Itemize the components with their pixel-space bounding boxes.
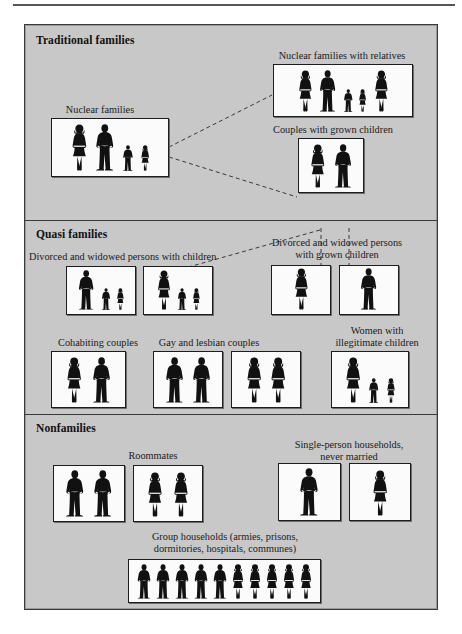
box-gay-and-lesbian-couples-2 bbox=[231, 351, 301, 408]
box-roommates-2 bbox=[133, 465, 203, 522]
box-roommates-1 bbox=[53, 465, 125, 522]
figure-row bbox=[128, 557, 321, 602]
figure-row bbox=[299, 135, 363, 192]
box-cohabiting-couples bbox=[51, 351, 126, 408]
box-nuclear-families-with-relatives bbox=[273, 64, 413, 117]
figure-row bbox=[350, 460, 410, 520]
diagram-frame: Traditional families Nuclear families bbox=[24, 24, 438, 610]
caption-couples-with-grown-children: Couples with grown children bbox=[243, 124, 423, 136]
woman-silhouette-icon bbox=[344, 357, 362, 403]
section-divider-1 bbox=[25, 220, 437, 221]
man-silhouette-icon bbox=[333, 144, 353, 188]
box-gay-and-lesbian-couples-1 bbox=[153, 351, 223, 408]
man-silhouette-icon bbox=[174, 564, 190, 599]
box-women-with-illegitimate-children bbox=[331, 351, 409, 408]
figure-row bbox=[154, 348, 222, 407]
man-silhouette-icon bbox=[193, 564, 209, 599]
woman-silhouette-icon bbox=[146, 472, 164, 517]
man-silhouette-icon bbox=[191, 357, 212, 403]
man-silhouette-icon bbox=[359, 268, 378, 310]
figure-row bbox=[54, 462, 124, 521]
boy-silhouette-icon bbox=[368, 378, 380, 403]
box-divorced-widowed-grown-children-2 bbox=[339, 265, 399, 315]
figure-row bbox=[279, 460, 340, 520]
section-divider-2 bbox=[25, 414, 437, 415]
man-silhouette-icon bbox=[92, 470, 114, 517]
woman-silhouette-icon bbox=[70, 124, 89, 171]
boy-silhouette-icon bbox=[343, 89, 354, 112]
box-single-person-households-1 bbox=[278, 463, 341, 521]
woman-silhouette-icon bbox=[231, 564, 245, 599]
box-nuclear-families bbox=[51, 118, 169, 177]
caption-women-with-illegitimate-children: Women with illegitimate children bbox=[317, 325, 437, 348]
figure-row bbox=[340, 262, 398, 314]
man-silhouette-icon bbox=[212, 564, 228, 599]
woman-silhouette-icon bbox=[373, 70, 390, 112]
girl-silhouette-icon bbox=[140, 145, 150, 171]
man-silhouette-icon bbox=[164, 357, 185, 403]
box-single-person-households-2 bbox=[349, 463, 411, 521]
diagram-page: Traditional families Nuclear families bbox=[0, 0, 462, 634]
section-title-traditional: Traditional families bbox=[36, 34, 135, 46]
woman-silhouette-icon bbox=[156, 270, 172, 310]
woman-silhouette-icon bbox=[245, 357, 263, 403]
caption-divorced-widowed-with-children: Divorced and widowed persons with childr… bbox=[29, 251, 261, 263]
figure-row bbox=[272, 262, 330, 314]
man-silhouette-icon bbox=[91, 357, 112, 403]
woman-silhouette-icon bbox=[269, 357, 287, 403]
boy-silhouette-icon bbox=[122, 145, 134, 171]
woman-silhouette-icon bbox=[248, 564, 262, 599]
woman-silhouette-icon bbox=[65, 357, 83, 403]
woman-silhouette-icon bbox=[293, 268, 310, 310]
man-silhouette-icon bbox=[77, 270, 95, 310]
man-silhouette-icon bbox=[64, 470, 86, 517]
girl-silhouette-icon bbox=[192, 288, 201, 310]
figure-row bbox=[52, 114, 168, 176]
man-silhouette-icon bbox=[136, 564, 152, 599]
figure-row bbox=[67, 263, 135, 314]
woman-silhouette-icon bbox=[371, 470, 389, 516]
girl-silhouette-icon bbox=[116, 288, 125, 310]
woman-silhouette-icon bbox=[297, 70, 314, 112]
box-divorced-widowed-with-children-1 bbox=[66, 266, 136, 315]
man-silhouette-icon bbox=[94, 124, 116, 171]
figure-row bbox=[52, 348, 125, 407]
woman-silhouette-icon bbox=[299, 564, 313, 599]
boy-silhouette-icon bbox=[177, 288, 187, 310]
figure-row bbox=[232, 348, 300, 407]
section-title-nonfamilies: Nonfamilies bbox=[36, 422, 96, 434]
box-divorced-widowed-with-children-2 bbox=[143, 266, 213, 315]
top-rule bbox=[13, 4, 455, 6]
caption-single-person-households: Single-person households, never married bbox=[269, 439, 429, 462]
box-couples-with-grown-children bbox=[298, 138, 364, 193]
caption-gay-and-lesbian-couples: Gay and lesbian couples bbox=[133, 337, 285, 349]
woman-silhouette-icon bbox=[309, 144, 327, 188]
figure-row bbox=[332, 348, 408, 407]
figure-row bbox=[134, 462, 202, 521]
woman-silhouette-icon bbox=[265, 564, 279, 599]
man-silhouette-icon bbox=[318, 70, 337, 112]
woman-silhouette-icon bbox=[172, 472, 190, 517]
caption-group-households: Group households (armies, prisons, dormi… bbox=[125, 531, 325, 554]
box-group-households bbox=[128, 559, 321, 603]
box-divorced-widowed-grown-children-1 bbox=[271, 265, 331, 315]
man-silhouette-icon bbox=[155, 564, 171, 599]
caption-nuclear-families-with-relatives: Nuclear families with relatives bbox=[247, 50, 437, 62]
girl-silhouette-icon bbox=[386, 378, 396, 403]
section-title-quasi: Quasi families bbox=[36, 228, 107, 240]
boy-silhouette-icon bbox=[101, 288, 111, 310]
figure-row bbox=[144, 263, 212, 314]
figure-row bbox=[274, 61, 412, 116]
caption-roommates: Roommates bbox=[98, 450, 208, 462]
girl-silhouette-icon bbox=[358, 89, 367, 112]
woman-silhouette-icon bbox=[282, 564, 296, 599]
caption-divorced-widowed-grown-children: Divorced and widowed persons with grown … bbox=[257, 237, 417, 260]
man-silhouette-icon bbox=[298, 468, 320, 516]
